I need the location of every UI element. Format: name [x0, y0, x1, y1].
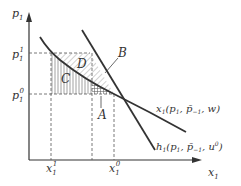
marshallian-curve-label: x1(p1, p̄−1, w): [156, 103, 220, 115]
p1-1-label: p11: [12, 46, 24, 63]
region-a-label: A: [97, 108, 107, 122]
x-axis-label: x1: [208, 166, 219, 181]
y-axis-arrow-icon: [26, 12, 32, 22]
y-axis-label: p1: [12, 7, 24, 22]
b-pointer: [105, 58, 118, 73]
x1-0-label: x10: [109, 160, 121, 177]
demand-diagram: p1 x1 p11 p10 x11 x10 C D A B x1(p1, p̄−…: [0, 0, 241, 186]
x1-1-label: x11: [46, 160, 57, 177]
hicksian-curve-label: h1(p1, p̄−1, u0): [156, 140, 223, 153]
region-c-label: C: [61, 72, 70, 86]
x-axis-arrow-icon: [192, 157, 202, 163]
region-b-label: B: [117, 46, 127, 60]
region-d-label: D: [76, 57, 87, 71]
p1-0-label: p10: [12, 87, 25, 104]
